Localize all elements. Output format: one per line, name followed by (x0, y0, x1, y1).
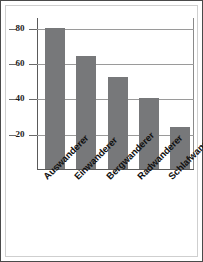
bar-auswanderer (45, 28, 65, 169)
x-axis-category-labels: AuswandererEinwandererBergwandererRadwan… (37, 172, 202, 258)
chart-figure: 20406080 AuswandererEinwandererBergwande… (0, 0, 203, 262)
y-tick-mark-inner-80 (29, 29, 37, 30)
y-tick-mark-inner-20 (29, 135, 37, 136)
chart-figure-inner-frame: 20406080 AuswandererEinwandererBergwande… (5, 5, 198, 257)
y-tick-label-20: 20 (12, 130, 28, 139)
y-tick-mark-inner-40 (29, 99, 37, 100)
y-tick-label-40: 40 (12, 94, 28, 103)
y-tick-label-80: 80 (12, 24, 28, 33)
y-tick-mark-inner-60 (29, 64, 37, 65)
y-tick-label-60: 60 (12, 59, 28, 68)
